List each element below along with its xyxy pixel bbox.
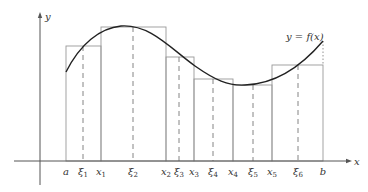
tick-label-x1: x1: [96, 166, 106, 179]
tick-label-xi1: ξ1: [78, 166, 88, 179]
tick-label-a: a: [63, 166, 69, 177]
tick-label-xi6: ξ6: [293, 166, 304, 179]
riemann-rectangle-2: [101, 27, 166, 161]
function-curve: [66, 26, 323, 85]
tick-labels: aξ1x1ξ2x2ξ3x3ξ4x4ξ5x5ξ6b: [63, 166, 326, 179]
curve-label: y = f(x): [285, 31, 324, 42]
y-axis-label: y: [44, 11, 51, 22]
y-axis-arrow-icon: [38, 12, 42, 18]
riemann-rectangle-6: [272, 65, 323, 161]
tick-label-xi2: ξ2: [128, 166, 138, 179]
sample-point-lines: [83, 27, 298, 161]
tick-label-xi5: ξ5: [248, 166, 258, 179]
riemann-rectangle-4: [194, 79, 233, 161]
tick-label-b: b: [320, 166, 326, 177]
riemann-rectangle-3: [166, 57, 194, 161]
riemann-rectangle-5: [233, 85, 272, 161]
riemann-rectangles: [66, 27, 323, 161]
tick-label-x3: x3: [189, 166, 199, 179]
tick-label-xi3: ξ3: [174, 166, 184, 179]
x-axis-arrow-icon: [346, 159, 352, 163]
tick-label-x4: x4: [228, 166, 239, 179]
riemann-sum-diagram: x y y = f(x) aξ1x1ξ2x2ξ3x3ξ4x4ξ5x5ξ6b: [0, 0, 368, 192]
x-axis-label: x: [354, 156, 360, 167]
tick-label-x2: x2: [161, 166, 171, 179]
tick-label-xi4: ξ4: [208, 166, 219, 179]
tick-label-x5: x5: [267, 166, 277, 179]
